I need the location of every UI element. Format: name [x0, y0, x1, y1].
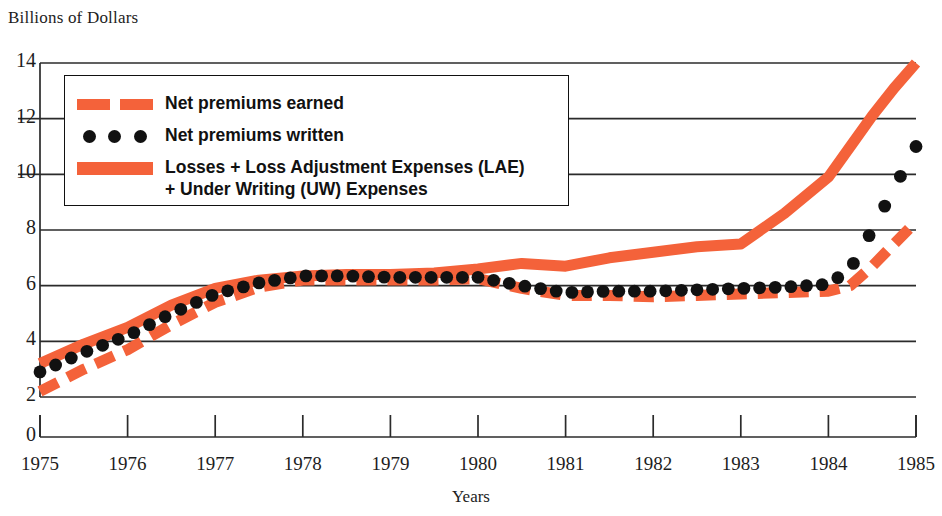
data-point-marker [894, 170, 907, 183]
data-point-marker [127, 326, 140, 339]
x-tick-label-1984: 1984 [793, 453, 863, 475]
data-point-marker [534, 282, 547, 295]
data-point-marker [253, 277, 266, 290]
y-tick-label-2: 2 [4, 383, 36, 406]
data-point-marker [691, 283, 704, 296]
data-point-marker [49, 359, 62, 372]
chart-legend: Net premiums earned Net premiums written… [64, 75, 569, 206]
data-point-marker [597, 285, 610, 298]
x-tick-label-1981: 1981 [531, 453, 601, 475]
data-point-marker [425, 271, 438, 284]
data-point-marker [910, 140, 923, 153]
data-point-marker [409, 271, 422, 284]
data-point-marker [706, 283, 719, 296]
data-point-marker [785, 280, 798, 293]
x-tick-label-1983: 1983 [706, 453, 776, 475]
data-point-marker [847, 257, 860, 270]
x-axis-title: Years [0, 487, 942, 507]
y-tick-label-10: 10 [4, 160, 36, 183]
data-point-marker [315, 270, 328, 283]
x-tick-label-1978: 1978 [268, 453, 338, 475]
data-point-marker [237, 281, 250, 294]
data-point-marker [566, 286, 579, 299]
legend-label-net-premiums-written: Net premiums written [165, 124, 344, 146]
data-point-marker [331, 270, 344, 283]
data-point-marker [628, 285, 641, 298]
data-point-marker [347, 270, 360, 283]
x-tick-label-1975: 1975 [5, 453, 75, 475]
data-point-marker [96, 339, 109, 352]
chart-figure: Billions of Dollars Net premiums earned … [0, 0, 942, 516]
data-point-marker [81, 345, 94, 358]
data-point-marker [863, 229, 876, 242]
data-point-marker [878, 200, 891, 213]
legend-label-net-premiums-earned: Net premiums earned [165, 92, 344, 114]
x-tick-label-1980: 1980 [443, 453, 513, 475]
data-point-marker [456, 271, 469, 284]
data-point-marker [644, 285, 657, 298]
data-point-marker [487, 274, 500, 287]
data-point-marker [34, 366, 47, 379]
y-tick-label-0: 0 [4, 423, 36, 446]
y-tick-label-4: 4 [4, 327, 36, 350]
data-point-marker [65, 352, 78, 365]
data-point-marker [159, 310, 172, 323]
legend-item-net-premiums-earned: Net premiums earned [77, 92, 344, 114]
data-point-marker [174, 303, 187, 316]
data-point-marker [268, 274, 281, 287]
data-point-marker [581, 286, 594, 299]
x-tick-label-1979: 1979 [355, 453, 425, 475]
data-point-marker [190, 296, 203, 309]
y-tick-label-14: 14 [4, 49, 36, 72]
data-point-marker [816, 278, 829, 291]
data-point-marker [503, 277, 516, 290]
data-point-marker [831, 271, 844, 284]
data-point-marker [738, 282, 751, 295]
y-tick-label-6: 6 [4, 272, 36, 295]
data-point-marker [722, 282, 735, 295]
data-point-marker [300, 270, 313, 283]
dashed-coral-swatch-icon [77, 93, 153, 115]
black-dots-swatch-icon [77, 125, 153, 147]
x-tick-label-1976: 1976 [93, 453, 163, 475]
data-point-marker [659, 284, 672, 297]
data-point-marker [378, 271, 391, 284]
y-tick-label-8: 8 [4, 216, 36, 239]
data-point-marker [753, 282, 766, 295]
data-point-marker [206, 289, 219, 302]
solid-coral-swatch-icon [77, 157, 153, 179]
y-tick-label-12: 12 [4, 105, 36, 128]
data-point-marker [675, 284, 688, 297]
x-tick-label-1985: 1985 [881, 453, 942, 475]
data-point-marker [362, 270, 375, 283]
legend-item-losses-lae-uw: Losses + Loss Adjustment Expenses (LAE) … [77, 156, 525, 200]
data-point-marker [800, 279, 813, 292]
data-point-marker [769, 281, 782, 294]
data-point-marker [393, 271, 406, 284]
legend-label-losses-lae-uw: Losses + Loss Adjustment Expenses (LAE) … [165, 156, 525, 200]
data-point-marker [440, 271, 453, 284]
data-point-marker [143, 318, 156, 331]
data-point-marker [221, 284, 234, 297]
x-tick-label-1977: 1977 [180, 453, 250, 475]
data-point-marker [472, 271, 485, 284]
x-tick-label-1982: 1982 [618, 453, 688, 475]
legend-item-net-premiums-written: Net premiums written [77, 124, 344, 146]
data-point-marker [112, 333, 125, 346]
data-point-marker [550, 285, 563, 298]
data-point-marker [284, 272, 297, 285]
data-point-marker [612, 285, 625, 298]
data-point-marker [519, 280, 532, 293]
